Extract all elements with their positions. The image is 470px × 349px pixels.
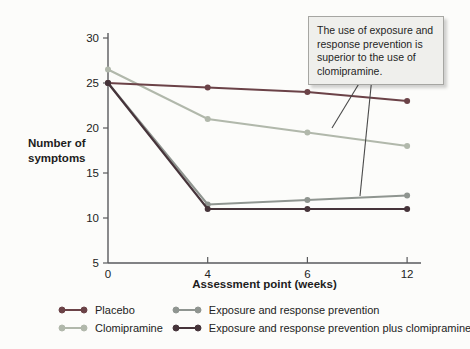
series-point-0: [304, 89, 310, 95]
series-point-1: [105, 67, 111, 73]
y-tick-label: 10: [86, 212, 99, 224]
legend-marker-erp-icon: [172, 305, 202, 315]
figure: 3025201510504612 Number of symptoms Asse…: [0, 0, 470, 349]
series-point-0: [404, 98, 410, 104]
series-point-1: [205, 116, 211, 122]
series-point-3: [105, 80, 111, 86]
legend-marker-clomipramine-icon: [58, 323, 88, 333]
legend-label-clomipramine: Clomipramine: [95, 322, 163, 334]
series-point-2: [404, 193, 410, 199]
y-tick-label: 20: [86, 122, 99, 134]
series-point-3: [404, 206, 410, 212]
legend-label-erp: Exposure and response prevention: [209, 304, 380, 316]
y-tick-label: 30: [86, 32, 99, 44]
legend-marker-placebo-icon: [58, 305, 88, 315]
annotation-callout: The use of exposure and response prevent…: [308, 16, 444, 85]
legend-item-clomipramine: Clomipramine: [58, 321, 163, 335]
series-line-3: [108, 83, 407, 209]
y-tick-label: 5: [93, 257, 99, 269]
y-tick-label: 15: [86, 167, 99, 179]
legend-marker-erp-plus-clomipramine-icon: [172, 323, 202, 333]
legend-item-placebo: Placebo: [58, 303, 163, 317]
legend-item-erp-plus-clomipramine: Exposure and response prevention plus cl…: [172, 321, 470, 335]
x-axis-title: Assessment point (weeks): [108, 278, 421, 290]
y-axis-title: Number of symptoms: [28, 136, 96, 166]
legend-label-placebo: Placebo: [95, 304, 135, 316]
series-point-2: [304, 197, 310, 203]
series-point-1: [304, 130, 310, 136]
legend-item-erp: Exposure and response prevention: [172, 303, 470, 317]
series-point-1: [404, 143, 410, 149]
series-point-0: [205, 85, 211, 91]
series-line-2: [108, 83, 407, 205]
legend: Placebo Exposure and response prevention…: [58, 303, 470, 335]
callout-leader-line: [360, 77, 372, 196]
series-point-3: [304, 206, 310, 212]
legend-label-erp-plus-clomipramine: Exposure and response prevention plus cl…: [209, 322, 470, 334]
y-tick-label: 25: [86, 77, 99, 89]
series-point-3: [205, 206, 211, 212]
